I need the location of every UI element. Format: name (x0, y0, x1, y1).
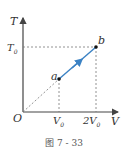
point-a (57, 77, 61, 81)
origin-label: O (13, 112, 22, 125)
point-b-label: b (98, 34, 105, 47)
process-arrow-icon (72, 61, 80, 68)
figure-caption: 图 7 - 33 (45, 138, 83, 148)
t0-tick-label: T0 (7, 42, 18, 55)
v-axis-label: V (111, 115, 120, 128)
v0-tick-label: V0 (53, 115, 64, 128)
t-axis-label: T (10, 15, 19, 28)
point-a-label: a (51, 70, 58, 83)
2v0-tick-label: 2V0 (82, 115, 101, 128)
tv-diagram: T V O T0 V0 2V0 a b 图 7 - 33 (0, 0, 129, 159)
origin-to-a-dashed-line (23, 79, 59, 112)
